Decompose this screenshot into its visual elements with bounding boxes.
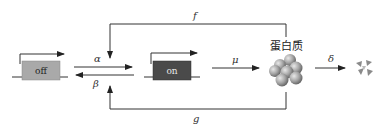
rate-delta: δ [328,53,334,64]
protein-cluster-icon [269,54,303,87]
degraded-fragments-icon [356,60,373,76]
gene-on: on [144,53,200,80]
rate-mu: μ [232,54,239,65]
gene-on-label: on [166,66,177,76]
rate-alpha: α [94,53,101,64]
feedback-g-arrow [110,86,286,109]
gene-regulation-diagram: off α β on μ f g 蛋白质 δ [0,0,388,131]
rate-f: f [192,10,199,21]
gene-off: off [12,54,68,80]
rate-g: g [193,113,199,124]
protein-label: 蛋白质 [270,39,303,53]
feedback-f-arrow [110,24,286,58]
rate-beta: β [92,78,99,89]
gene-off-label: off [35,66,47,76]
